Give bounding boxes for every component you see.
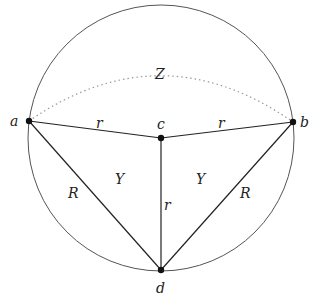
segment-a-d: [29, 121, 161, 270]
label-r-cb: r: [218, 115, 226, 131]
point-b: [290, 119, 296, 125]
label-d: d: [156, 280, 165, 296]
label-a: a: [10, 113, 18, 129]
segment-c-b: [161, 122, 293, 138]
geometry-diagram: a b c d r r r R R Y Y Z: [0, 0, 315, 299]
point-d: [158, 267, 164, 273]
label-Y-left: Y: [115, 171, 126, 187]
label-Y-right: Y: [196, 171, 207, 187]
label-b: b: [300, 114, 309, 130]
label-R-ad: R: [67, 185, 79, 201]
label-r-ac: r: [96, 115, 104, 131]
segment-a-c: [29, 121, 161, 138]
label-Z: Z: [154, 66, 165, 82]
point-a: [26, 118, 32, 124]
segment-b-d: [161, 122, 293, 270]
label-r-cd: r: [164, 197, 172, 213]
point-c: [158, 135, 164, 141]
label-c: c: [157, 116, 165, 132]
label-R-bd: R: [239, 185, 251, 201]
